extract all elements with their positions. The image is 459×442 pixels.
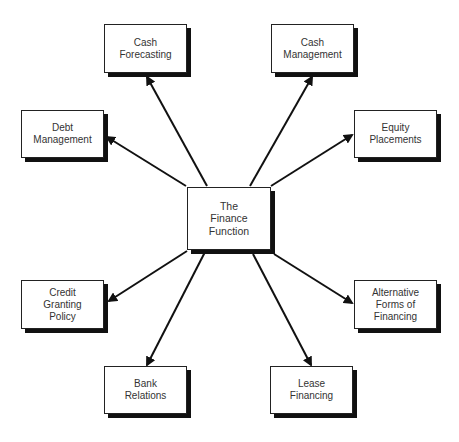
node-cash-forecasting: Cash Forecasting [104, 24, 187, 73]
node-label-line: Cash [301, 37, 324, 49]
node-label-line: Forms of [376, 299, 415, 311]
node-label-line: Management [33, 134, 91, 146]
node-label-line: Financing [374, 311, 417, 323]
node-cash-management: Cash Management [271, 24, 354, 73]
node-label-line: Policy [49, 311, 76, 323]
node-label-line: Relations [125, 390, 167, 402]
node-label-line: Credit [49, 287, 76, 299]
center-label-line: Function [209, 225, 249, 238]
arrow-to-debt-management [107, 137, 186, 186]
node-label-line: Lease [298, 378, 325, 390]
center-label-line: Finance [210, 212, 247, 225]
node-label-line: Placements [369, 134, 421, 146]
node-alternative-forms-of-financing: Alternative Forms of Financing [354, 280, 437, 329]
node-label-line: Alternative [372, 287, 419, 299]
arrow-to-cash-forecasting [147, 77, 207, 186]
node-credit-granting-policy: Credit Granting Policy [21, 280, 104, 329]
node-label-line: Financing [290, 390, 333, 402]
node-label-line: Cash [134, 37, 157, 49]
arrow-to-cash-management [250, 77, 312, 186]
node-label-line: Granting [43, 299, 81, 311]
center-label-line: The [220, 200, 238, 213]
node-label-line: Bank [134, 378, 157, 390]
arrow-to-bank-relations [147, 252, 205, 365]
node-label-line: Debt [52, 122, 73, 134]
node-label-line: Management [283, 49, 341, 61]
node-bank-relations: Bank Relations [104, 366, 187, 414]
arrow-to-alternative-forms-of-financing [274, 254, 352, 303]
node-debt-management: Debt Management [21, 110, 104, 158]
node-label-line: Equity [382, 122, 410, 134]
node-finance-function: The Finance Function [187, 187, 271, 250]
arrow-to-credit-granting-policy [109, 251, 187, 301]
node-label-line: Forecasting [119, 49, 171, 61]
node-lease-financing: Lease Financing [270, 366, 353, 414]
arrow-to-equity-placements [271, 135, 352, 186]
node-equity-placements: Equity Placements [354, 110, 437, 158]
